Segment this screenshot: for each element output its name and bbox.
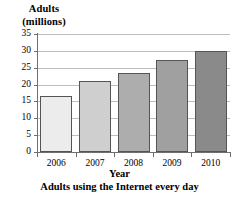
- y-axis-title-line-1: Adults: [8, 3, 80, 16]
- bar-2007: [79, 81, 111, 152]
- y-axis-tick-label: 20: [5, 80, 31, 90]
- x-axis-tick: [153, 153, 154, 157]
- bar-2009: [156, 60, 188, 152]
- x-axis-tick: [230, 153, 231, 157]
- gridline: [37, 34, 230, 35]
- chart-caption: Adults using the Internet every day: [0, 181, 239, 193]
- y-axis-tick: [34, 85, 38, 86]
- y-axis-tick: [34, 101, 38, 102]
- y-axis-tick-label: 25: [5, 63, 31, 73]
- y-axis-tick-label: 35: [5, 29, 31, 39]
- y-axis-tick: [34, 34, 38, 35]
- y-axis-tick: [34, 68, 38, 69]
- x-axis-title: Year: [0, 168, 239, 180]
- y-axis-title: Adults (millions): [8, 3, 80, 28]
- y-axis-title-line-2: (millions): [8, 16, 80, 29]
- y-axis-tick: [34, 118, 38, 119]
- bar-2008: [118, 73, 150, 152]
- x-axis-tick: [37, 153, 38, 157]
- bar-2006: [40, 96, 72, 152]
- x-axis-tick: [114, 153, 115, 157]
- y-axis-tick: [34, 135, 38, 136]
- bar-2010: [195, 51, 227, 152]
- plot-area: 05101520253035: [37, 34, 230, 152]
- y-axis-tick-label: 0: [5, 147, 31, 157]
- y-axis-tick-label: 5: [5, 130, 31, 140]
- y-axis-tick: [34, 51, 38, 52]
- x-axis-tick: [191, 153, 192, 157]
- bar-chart-figure: Adults (millions) 05101520253035 2006200…: [0, 0, 239, 197]
- x-axis-tick: [76, 153, 77, 157]
- y-axis-tick-label: 10: [5, 113, 31, 123]
- y-axis-tick-label: 30: [5, 46, 31, 56]
- y-axis-tick-label: 15: [5, 96, 31, 106]
